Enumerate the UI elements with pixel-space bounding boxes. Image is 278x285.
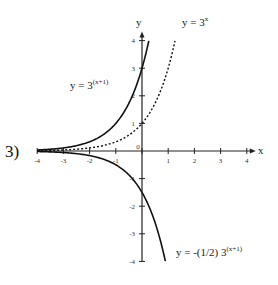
curve-3-pow-x <box>37 41 175 151</box>
x-tick-label: 0 <box>136 143 140 151</box>
y-tick-label: 3 <box>132 65 136 73</box>
x-tick-label: 2 <box>193 157 197 165</box>
x-tick-label: 4 <box>245 157 249 165</box>
y-tick-label: -2 <box>129 203 135 211</box>
y-tick-label: 4 <box>132 37 136 45</box>
x-tick-label: 3 <box>219 157 223 165</box>
label-curve-3-pow-x: y = 3x <box>182 15 208 28</box>
x-axis-arrow-icon <box>250 149 256 154</box>
y-axis-label: y <box>136 16 142 28</box>
x-tick-label: -2 <box>87 157 93 165</box>
y-tick-label: -3 <box>129 230 135 238</box>
label-curve-neg-half-3-pow-x-plus-1: y = -(1/2) 3(x+1) <box>176 245 242 258</box>
x-axis-label: x <box>258 144 264 156</box>
x-tick-label: -3 <box>60 157 66 165</box>
y-tick-label: 1 <box>132 120 136 128</box>
y-tick-label: -4 <box>129 258 135 266</box>
x-tick-label: 1 <box>166 157 170 165</box>
x-tick-label: -4 <box>34 157 40 165</box>
curve-neg-half-3-pow-x-plus-1 <box>37 152 165 262</box>
y-axis-arrow-icon <box>140 32 145 38</box>
label-curve-3-pow-x-plus-1: y = 3(x+1) <box>70 78 108 91</box>
graph: -4-3-2-101234-4-3-2-11234 <box>0 0 278 285</box>
